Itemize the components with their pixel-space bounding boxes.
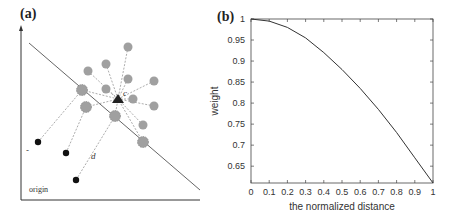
x-tick-label: 0.3 (299, 187, 312, 197)
y-tick-label: 0.95 (227, 35, 245, 45)
gray-sample-point (139, 121, 148, 130)
center-label: c (123, 88, 127, 98)
weight-chart-canvas: 00.10.20.30.40.50.60.70.80.910.650.70.75… (200, 0, 453, 217)
x-tick-label: 0.1 (263, 187, 276, 197)
gray-sample-point (102, 60, 111, 69)
black-sample-point (73, 177, 79, 183)
dashed-link (38, 90, 82, 142)
minus-label: - (26, 145, 29, 155)
black-sample-point (35, 139, 41, 145)
gray-sample-point (84, 67, 93, 76)
gray-sample-point (77, 85, 88, 96)
gray-sample-point (129, 95, 138, 104)
y-tick-label: 0.9 (232, 56, 245, 66)
x-tick-label: 0.6 (354, 187, 367, 197)
distance-label: d (91, 151, 96, 161)
origin-label: origin (29, 185, 48, 194)
y-tick-label: 0.85 (227, 77, 245, 87)
x-tick-label: 0.5 (336, 187, 349, 197)
gray-sample-point (150, 77, 159, 86)
panel-b-weight-chart: (b) 00.10.20.30.40.50.60.70.80.910.650.7… (200, 0, 453, 217)
gray-sample-point (102, 85, 111, 94)
gray-sample-point (81, 102, 92, 113)
x-tick-label: 1 (430, 187, 435, 197)
x-tick-label: 0.9 (409, 187, 422, 197)
plot-frame (251, 19, 433, 183)
y-axis-arrow-icon (19, 25, 23, 31)
y-tick-label: 0.75 (227, 119, 245, 129)
y-tick-label: 0.7 (232, 140, 245, 150)
gray-sample-point (138, 137, 149, 148)
gray-sample-point (150, 102, 159, 111)
panel-a-schematic: (a) origin d c - (0, 0, 200, 217)
black-sample-point (63, 150, 69, 156)
x-tick-label: 0.2 (281, 187, 294, 197)
dashed-link (76, 116, 115, 180)
y-tick-label: 1 (240, 14, 245, 24)
x-tick-label: 0.4 (318, 187, 331, 197)
weight-curve (251, 19, 433, 183)
x-tick-label: 0.7 (372, 187, 385, 197)
gray-sample-point (110, 111, 121, 122)
y-axis-label: weight (209, 86, 220, 116)
y-tick-label: 0.65 (227, 161, 245, 171)
gray-sample-point (124, 75, 133, 84)
dashed-link (118, 99, 143, 142)
y-tick-label: 0.8 (232, 98, 245, 108)
dashed-link (66, 107, 86, 153)
x-tick-label: 0.8 (390, 187, 403, 197)
gray-sample-point (124, 43, 133, 52)
x-axis-label: the normalized distance (289, 201, 395, 212)
x-tick-label: 0 (248, 187, 253, 197)
